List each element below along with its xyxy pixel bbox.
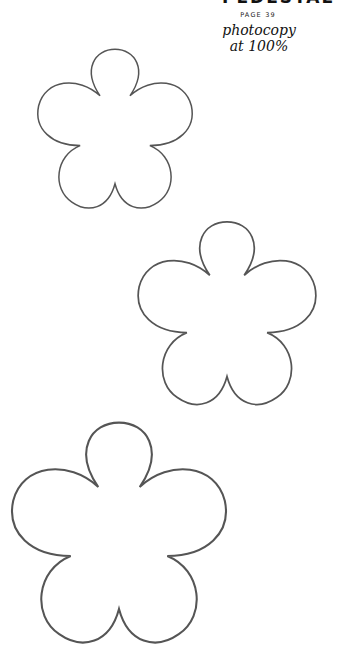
note-line-1: photocopy	[214, 22, 304, 38]
page-title-cropped: PEDESTAL	[222, 0, 312, 6]
photocopy-note: photocopy at 100%	[214, 22, 304, 54]
flower-template-medium	[125, 218, 329, 409]
note-line-2: at 100%	[214, 38, 304, 54]
page-number: PAGE 39	[226, 11, 290, 19]
flower-template-small	[30, 46, 200, 212]
flower-template-large	[0, 418, 240, 648]
